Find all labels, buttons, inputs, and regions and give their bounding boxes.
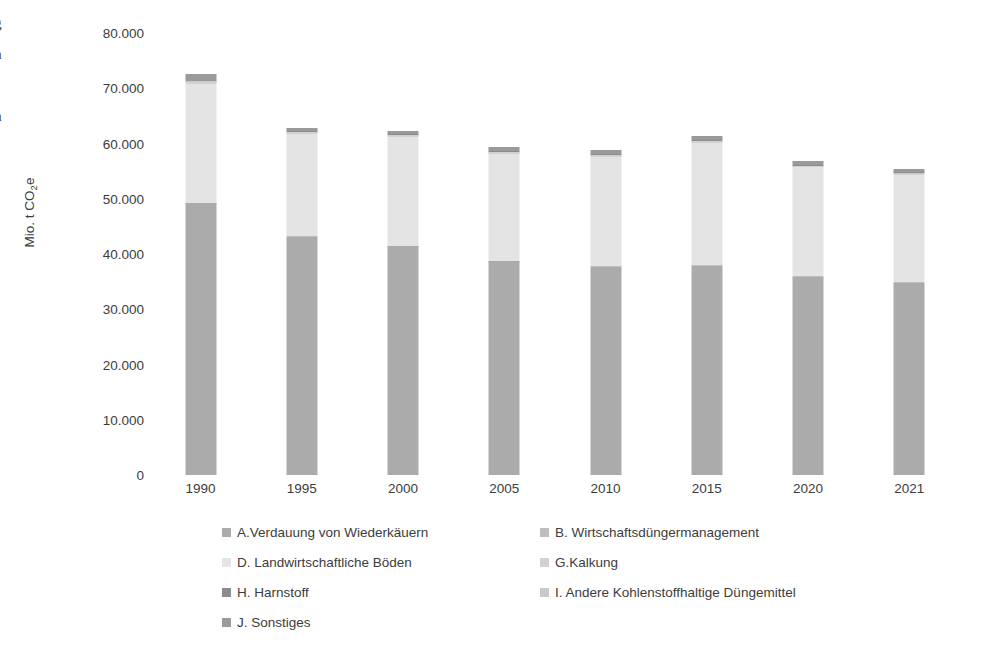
y-axis-tick-label: 70.000	[60, 81, 144, 96]
legend-color-swatch-icon	[222, 618, 231, 627]
legend-item[interactable]: G.Kalkung	[540, 556, 618, 570]
bar-stack[interactable]	[590, 150, 621, 475]
chart-legend: A.Verdauung von WiederkäuernB. Wirtschaf…	[150, 526, 960, 636]
bar-segment-d[interactable]	[894, 175, 925, 282]
legend-item-label: B. Wirtschaftsdüngermanagement	[555, 526, 759, 540]
bar-segment-a[interactable]	[286, 237, 317, 475]
bar-stack[interactable]	[489, 147, 520, 475]
legend-item-label: D. Landwirtschaftliche Böden	[237, 556, 412, 570]
legend-item-label: I. Andere Kohlenstoffhaltige Düngemittel	[555, 586, 796, 600]
x-axis-tick-label: 2010	[561, 481, 651, 496]
y-axis-title: Mio. t CO2e	[22, 148, 37, 278]
stacked-bar-chart: Mio. t CO2e 80.00070.00060.00050.00040.0…	[0, 0, 983, 654]
y-axis-title-subscript: 2	[28, 185, 39, 190]
plot-area	[150, 33, 960, 475]
legend-item-label: G.Kalkung	[555, 556, 618, 570]
legend-item[interactable]: A.Verdauung von Wiederkäuern	[222, 526, 428, 540]
bar-segment-d[interactable]	[590, 157, 621, 266]
legend-color-swatch-icon	[540, 558, 549, 567]
legend-color-swatch-icon	[540, 588, 549, 597]
bar-segment-a[interactable]	[590, 267, 621, 475]
bar-segment-d[interactable]	[286, 134, 317, 236]
x-axis-tick-label: 1995	[257, 481, 347, 496]
legend-item[interactable]: J. Sonstiges	[222, 616, 311, 630]
bar-segment-a[interactable]	[489, 261, 520, 475]
y-axis-tick-label: 30.000	[60, 302, 144, 317]
y-axis-tick-label: 50.000	[60, 191, 144, 206]
x-axis-tick-label: 2015	[662, 481, 752, 496]
y-axis-tick-label: 0	[60, 468, 144, 483]
bar-segment-d[interactable]	[489, 154, 520, 261]
bar-segment-a[interactable]	[793, 277, 824, 475]
bar-stack[interactable]	[286, 128, 317, 475]
bar-stack[interactable]	[894, 169, 925, 475]
y-axis-tick-label: 80.000	[60, 26, 144, 41]
legend-color-swatch-icon	[222, 588, 231, 597]
bar-stack[interactable]	[185, 74, 216, 475]
y-axis-title-main: Mio. t CO	[22, 190, 37, 247]
bar-segment-a[interactable]	[388, 246, 419, 475]
bar-stack[interactable]	[793, 161, 824, 475]
legend-item[interactable]: B. Wirtschaftsdüngermanagement	[540, 526, 759, 540]
legend-color-swatch-icon	[540, 528, 549, 537]
y-axis-tick-label: 20.000	[60, 357, 144, 372]
y-axis-tick-label: 10.000	[60, 412, 144, 427]
legend-item[interactable]: D. Landwirtschaftliche Böden	[222, 556, 412, 570]
bar-segment-a[interactable]	[691, 266, 722, 475]
legend-item-label: A.Verdauung von Wiederkäuern	[237, 526, 428, 540]
legend-item[interactable]: H. Harnstoff	[222, 586, 309, 600]
bar-stack[interactable]	[388, 131, 419, 475]
x-axis-tick-label: 2005	[459, 481, 549, 496]
legend-item-label: J. Sonstiges	[237, 616, 311, 630]
legend-item-label: H. Harnstoff	[237, 586, 309, 600]
x-axis-tick-labels: 19901995200020052010201520202021	[150, 481, 960, 507]
y-axis-tick-labels: 80.00070.00060.00050.00040.00030.00020.0…	[60, 0, 144, 654]
bar-segment-d[interactable]	[691, 143, 722, 265]
y-axis-tick-label: 40.000	[60, 247, 144, 262]
bar-stack[interactable]	[691, 136, 722, 475]
legend-color-swatch-icon	[222, 528, 231, 537]
legend-item[interactable]: I. Andere Kohlenstoffhaltige Düngemittel	[540, 586, 796, 600]
x-axis-tick-label: 2000	[358, 481, 448, 496]
bar-segment-a[interactable]	[894, 283, 925, 475]
x-axis-tick-label: 2021	[864, 481, 954, 496]
bar-segment-a[interactable]	[185, 203, 216, 475]
y-axis-title-suffix: e	[22, 178, 37, 186]
legend-color-swatch-icon	[222, 558, 231, 567]
x-axis-tick-label: 2020	[763, 481, 853, 496]
bar-segment-d[interactable]	[793, 167, 824, 276]
x-axis-tick-label: 1990	[156, 481, 246, 496]
y-axis-tick-label: 60.000	[60, 136, 144, 151]
bar-segment-d[interactable]	[388, 137, 419, 246]
bar-segment-d[interactable]	[185, 84, 216, 202]
